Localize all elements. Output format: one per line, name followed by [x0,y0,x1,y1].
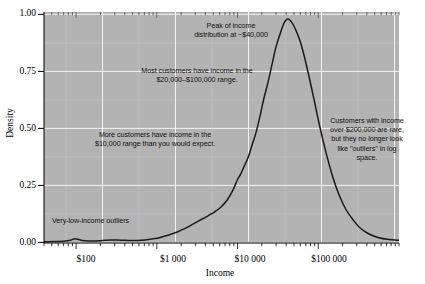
y-tick-label-4: 1.00 [2,8,36,18]
x-tick-label-1: $1 000 [139,254,207,264]
y-tick-label-3: 0.75 [2,66,36,76]
y-tick-label-1: 0.25 [2,180,36,190]
chart-plot-area [0,0,425,284]
x-axis-title: Income [150,268,290,278]
x-axis-ticks-bottom [44,243,399,249]
y-tick-label-0: 0.00 [2,237,36,247]
density-chart-figure: 0.00 0.25 0.50 0.75 1.00 $100 $1 000 $10… [0,0,425,284]
x-tick-label-3: $100 000 [287,254,371,264]
y-axis-title: Density [5,93,15,153]
y-axis-ticks [38,14,44,242]
x-tick-label-0: $100 [56,254,116,264]
x-tick-label-2: $10 000 [212,254,288,264]
